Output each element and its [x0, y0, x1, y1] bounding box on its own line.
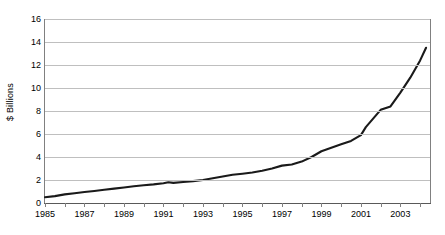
x-axis-tick [124, 203, 125, 207]
x-axis-tick [203, 203, 204, 207]
x-axis-tick [282, 203, 283, 207]
gridline [45, 19, 430, 20]
y-axis-tick-labels: 0246810121416 [18, 0, 44, 215]
x-axis-tick [65, 203, 66, 207]
x-axis-tick-label: 2003 [390, 209, 410, 219]
y-axis-tick-label: 10 [31, 84, 41, 93]
x-axis-tick [163, 203, 164, 207]
x-axis-tick-label: 2001 [351, 209, 371, 219]
y-axis-tick-label: 8 [36, 107, 41, 116]
line-chart: $ Billions 0246810121416 198519871989199… [0, 0, 445, 235]
plot-area [45, 19, 430, 203]
x-axis-tick [84, 203, 85, 207]
x-axis-tick [302, 203, 303, 207]
x-axis-tick [223, 203, 224, 207]
y-axis-tick-label: 2 [36, 176, 41, 185]
x-axis-tick [420, 203, 421, 207]
x-axis-tick [45, 203, 46, 207]
gridline [45, 88, 430, 89]
x-axis-tick-label: 1989 [114, 209, 134, 219]
x-axis-tick-label: 1995 [232, 209, 252, 219]
x-axis-tick [104, 203, 105, 207]
x-axis-tick [262, 203, 263, 207]
x-axis-tick [400, 203, 401, 207]
y-axis-tick-label: 16 [31, 15, 41, 24]
x-axis-tick-label: 1993 [193, 209, 213, 219]
y-axis-tick-label: 4 [36, 153, 41, 162]
gridline [45, 111, 430, 112]
y-axis-tick-label: 14 [31, 38, 41, 47]
x-axis-tick-label: 1987 [74, 209, 94, 219]
x-axis-tick [144, 203, 145, 207]
x-axis-line [44, 203, 431, 204]
series-polyline [45, 48, 426, 198]
x-axis-tick [242, 203, 243, 207]
x-axis-tick [183, 203, 184, 207]
gridline [45, 42, 430, 43]
y-axis-tick-label: 12 [31, 61, 41, 70]
x-axis-tick [361, 203, 362, 207]
x-axis-tick-label: 1997 [272, 209, 292, 219]
y-axis-tick-label: 6 [36, 130, 41, 139]
gridline [45, 157, 430, 158]
x-axis-tick [321, 203, 322, 207]
x-axis-tick-label: 1991 [153, 209, 173, 219]
y-axis-title: $ Billions [2, 0, 18, 203]
x-axis-tick-label: 1985 [35, 209, 55, 219]
x-axis-tick [341, 203, 342, 207]
y-axis-tick-label: 0 [36, 199, 41, 208]
x-axis-tick [381, 203, 382, 207]
gridline [45, 180, 430, 181]
plot-right-border [430, 19, 431, 204]
y-axis-title-text: $ Billions [5, 82, 15, 120]
gridline [45, 134, 430, 135]
gridline [45, 65, 430, 66]
x-axis-tick-label: 1999 [311, 209, 331, 219]
